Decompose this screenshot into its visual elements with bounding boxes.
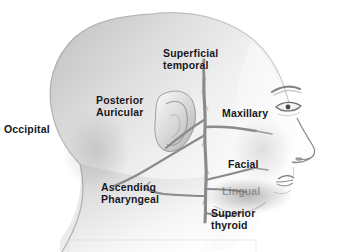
label-facial: Facial — [228, 159, 259, 171]
cheek-shading — [232, 116, 292, 184]
label-maxillary: Maxillary — [222, 108, 268, 120]
label-superior-thyroid: Superior thyroid — [211, 208, 255, 231]
head-neck-illustration — [0, 0, 345, 252]
label-ascending-pharyngeal: Ascending Pharyngeal — [101, 182, 159, 205]
label-superficial-temporal: Superficial temporal — [163, 48, 218, 71]
nape-shading — [62, 110, 130, 190]
label-occipital: Occipital — [4, 124, 50, 136]
label-posterior-auricular: Posterior Auricular — [96, 95, 143, 118]
label-lingual: Lingual — [222, 186, 260, 198]
anatomy-figure: Occipital Posterior Auricular Superficia… — [0, 0, 345, 252]
